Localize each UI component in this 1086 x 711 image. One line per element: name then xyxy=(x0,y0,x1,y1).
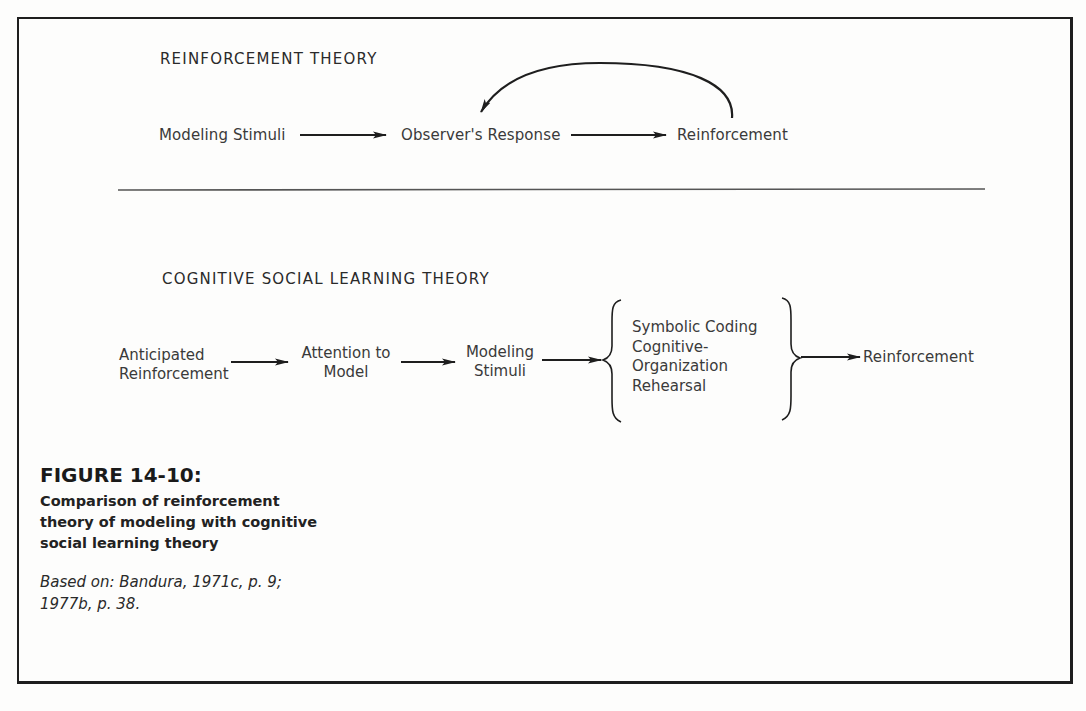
figure-number: FIGURE 14-10: xyxy=(40,463,202,487)
source-line: Based on: Bandura, 1971c, p. 9; xyxy=(40,571,400,593)
caption-line: Comparison of reinforcement xyxy=(40,491,400,512)
right-brace xyxy=(782,298,800,420)
node-line: Modeling xyxy=(459,343,541,362)
section-divider xyxy=(118,189,985,190)
left-brace xyxy=(603,300,621,422)
figure-source: Based on: Bandura, 1971c, p. 9; 1977b, p… xyxy=(40,571,400,615)
source-line: 1977b, p. 38. xyxy=(40,593,400,615)
node-line: Stimuli xyxy=(459,362,541,381)
node-anticipated-reinforcement: Anticipated Reinforcement xyxy=(119,346,229,384)
node-line: Organization xyxy=(632,357,757,377)
node-modeling-stimuli-csl: Modeling Stimuli xyxy=(459,343,541,381)
cognitive-social-learning-heading: COGNITIVE SOCIAL LEARNING THEORY xyxy=(162,270,490,288)
node-observers-response: Observer's Response xyxy=(401,126,560,144)
node-line: Anticipated xyxy=(119,346,229,365)
node-reinforcement: Reinforcement xyxy=(677,126,788,144)
node-cognitive-processes: Symbolic Coding Cognitive- Organization … xyxy=(632,318,757,396)
figure-caption: Comparison of reinforcement theory of mo… xyxy=(40,491,400,554)
feedback-arc-arrow xyxy=(481,63,732,118)
node-line: Rehearsal xyxy=(632,377,757,397)
node-line: Attention to xyxy=(292,344,400,363)
node-line: Model xyxy=(292,363,400,382)
caption-line: social learning theory xyxy=(40,533,400,554)
node-line: Symbolic Coding xyxy=(632,318,757,338)
reinforcement-theory-heading: REINFORCEMENT THEORY xyxy=(160,50,378,68)
caption-line: theory of modeling with cognitive xyxy=(40,512,400,533)
node-line: Reinforcement xyxy=(119,365,229,384)
node-line: Cognitive- xyxy=(632,338,757,358)
node-modeling-stimuli: Modeling Stimuli xyxy=(159,126,286,144)
node-attention-to-model: Attention to Model xyxy=(292,344,400,382)
node-reinforcement-csl: Reinforcement xyxy=(863,348,974,366)
